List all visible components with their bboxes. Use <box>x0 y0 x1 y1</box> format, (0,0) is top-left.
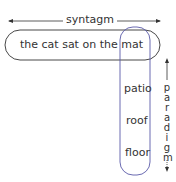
syntagm-label: syntagm <box>63 14 117 26</box>
paradigm-word-floor: floor <box>125 147 150 159</box>
sentence: the cat sat on the mat <box>20 39 143 51</box>
paradigm-word-patio: patio <box>124 83 152 95</box>
paradigm-letter: m <box>163 153 171 163</box>
paradigm-word-roof: roof <box>126 115 148 127</box>
paradigm-label: p a r a d i g m <box>163 83 171 163</box>
